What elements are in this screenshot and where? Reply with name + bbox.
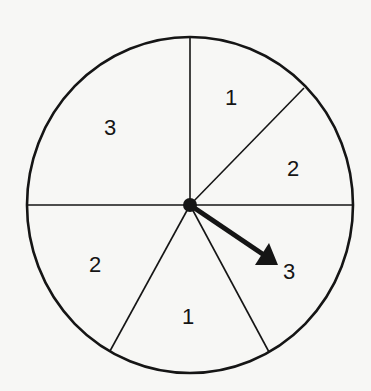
arrow-shaft [190,205,264,255]
sector-label: 1 [182,304,194,329]
sector-label: 2 [287,156,299,181]
pointer-arrow [190,205,278,265]
sector-label: 1 [225,85,237,110]
sector-label: 2 [89,252,101,277]
spoke-lower-left [110,205,190,351]
spinner-diagram: 1 2 3 1 2 3 [0,0,371,391]
sector-label: 3 [283,259,295,284]
center-pivot [183,198,197,212]
spoke-upper-right [190,88,304,205]
sector-label: 3 [104,115,116,140]
spoke-lower-right [190,205,269,352]
